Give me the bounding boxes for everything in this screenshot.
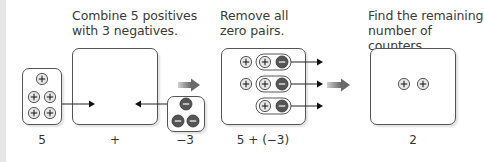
positives-count-label: 5 xyxy=(38,133,46,147)
plus-sign-label: + xyxy=(110,133,120,147)
positive-counter-icon xyxy=(259,78,270,89)
remove-arrow-icon xyxy=(291,103,323,110)
positive-counter-icon xyxy=(28,91,39,102)
positive-counter-icon xyxy=(398,78,409,89)
positive-counter-icon xyxy=(36,73,47,84)
remove-arrow-icon xyxy=(291,81,323,88)
positive-counter-icon xyxy=(259,56,270,67)
negative-counters-group xyxy=(172,98,199,127)
positive-counter-icon xyxy=(28,107,39,118)
remove-arrow-icon xyxy=(291,59,323,66)
positive-counter-icon xyxy=(259,100,270,111)
positive-counter-icon xyxy=(44,91,55,102)
positive-counter-icon xyxy=(240,56,251,67)
arrow-right-icon xyxy=(62,101,95,108)
positive-counter-icon xyxy=(417,78,428,89)
negative-counter-icon xyxy=(180,98,192,110)
remaining-counters-group xyxy=(398,78,428,89)
negative-counter-icon xyxy=(276,100,288,112)
negative-counter-icon xyxy=(172,115,184,127)
negative-counter-icon xyxy=(187,115,199,127)
negatives-count-label: −3 xyxy=(176,133,194,147)
step-arrow-icon xyxy=(178,79,200,92)
positive-counter-icon xyxy=(44,107,55,118)
negative-counter-icon xyxy=(276,56,288,68)
arrow-left-icon xyxy=(135,101,167,108)
positive-counter-icon xyxy=(240,78,251,89)
negative-counter-icon xyxy=(276,78,288,90)
result-label: 2 xyxy=(409,133,417,147)
positive-counters-group xyxy=(28,73,55,118)
step-arrow-icon xyxy=(327,79,350,92)
expression-label: 5 + (−3) xyxy=(237,133,289,147)
zero-pairs-contents xyxy=(240,54,291,114)
